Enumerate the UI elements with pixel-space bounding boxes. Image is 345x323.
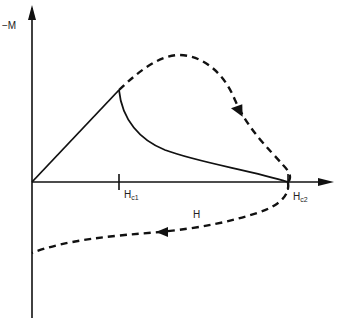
y-axis-label: −M bbox=[2, 20, 16, 31]
lower-dashed-curve bbox=[32, 182, 288, 253]
x-axis-label: H bbox=[193, 209, 200, 220]
m-axis-arrow-icon bbox=[28, 5, 36, 20]
linear-rise-curve bbox=[32, 90, 119, 182]
hc2-label: Hc2 bbox=[293, 191, 308, 203]
hc1-label: Hc1 bbox=[124, 189, 139, 201]
m-axis bbox=[28, 5, 36, 318]
left-arrow-icon bbox=[156, 227, 168, 237]
down-arrow-icon bbox=[231, 104, 246, 119]
h-axis-arrow-icon bbox=[318, 178, 334, 186]
decay-curve bbox=[119, 90, 288, 182]
upper-dashed-curve bbox=[119, 55, 290, 182]
magnetization-diagram: −M H Hc1 Hc2 bbox=[0, 0, 345, 323]
